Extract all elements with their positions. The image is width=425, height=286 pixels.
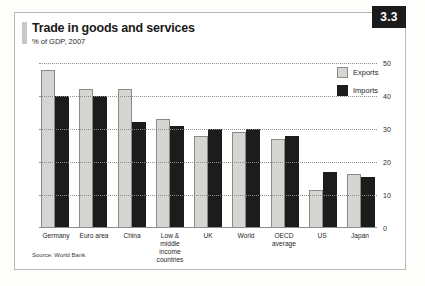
- bar-imports: [361, 177, 375, 228]
- legend-item-exports: Exports: [337, 67, 378, 78]
- page-title: Trade in goods and services: [32, 21, 195, 35]
- bar-imports: [323, 172, 337, 228]
- bar-exports: [271, 139, 285, 228]
- gridline-10: [39, 195, 377, 196]
- bar-group: [41, 70, 69, 228]
- gridline-20: [39, 162, 377, 163]
- bar-exports: [79, 89, 93, 228]
- bar-exports: [194, 136, 208, 228]
- y-axis-tick-0: 0: [383, 225, 401, 232]
- legend-item-imports: Imports: [337, 85, 378, 96]
- gridline-30: [39, 129, 377, 130]
- x-axis-label: Low & middle income countries: [155, 232, 185, 264]
- y-axis-tick-10: 10: [383, 192, 401, 199]
- bar-group: [194, 129, 222, 228]
- y-axis-tick-20: 20: [383, 159, 401, 166]
- plot-area: 01020304050: [39, 63, 377, 228]
- bar-imports: [246, 129, 260, 228]
- bar-imports: [170, 126, 184, 228]
- x-axis-line: [39, 227, 377, 228]
- x-axis-label: US: [307, 232, 337, 264]
- bar-group: [309, 172, 337, 228]
- bar-exports: [232, 132, 246, 228]
- chart-legend: Exports Imports: [337, 67, 378, 103]
- bar-imports: [285, 136, 299, 228]
- x-axis-label: China: [117, 232, 147, 264]
- bar-group: [156, 119, 184, 228]
- bar-exports: [41, 70, 55, 228]
- legend-label-exports: Exports: [353, 68, 378, 77]
- bar-exports: [118, 89, 132, 228]
- x-axis-label: OECD average: [269, 232, 299, 264]
- legend-label-imports: Imports: [353, 86, 378, 95]
- bar-imports: [132, 122, 146, 228]
- bar-imports: [208, 129, 222, 228]
- bar-exports: [347, 174, 361, 228]
- x-axis-label: World: [231, 232, 261, 264]
- screenshot-root: Trade in goods and services % of GDP, 20…: [0, 0, 425, 286]
- bar-group: [118, 89, 146, 228]
- status-badge: 3.3: [372, 6, 406, 28]
- gridline-40: [39, 96, 377, 97]
- exports-swatch-icon: [337, 67, 348, 78]
- x-axis-label: Euro area: [79, 232, 109, 264]
- y-axis-tick-50: 50: [383, 60, 401, 67]
- bar-exports: [156, 119, 170, 228]
- bar-group: [232, 129, 260, 228]
- x-axis-label: Japan: [345, 232, 375, 264]
- bar-group: [347, 174, 375, 228]
- x-axis-labels: GermanyEuro areaChinaLow & middle income…: [39, 232, 377, 264]
- gridline-50: [39, 63, 377, 64]
- chart-card: Trade in goods and services % of GDP, 20…: [14, 12, 406, 270]
- x-axis-label: Germany: [41, 232, 71, 264]
- bar-group-container: [39, 63, 377, 228]
- bar-group: [79, 89, 107, 228]
- chart-subtitle: % of GDP, 2007: [32, 37, 85, 46]
- x-axis-label: UK: [193, 232, 223, 264]
- y-axis-tick-30: 30: [383, 126, 401, 133]
- title-accent-bar: [22, 22, 27, 44]
- bar-group: [271, 136, 299, 228]
- y-axis-tick-40: 40: [383, 93, 401, 100]
- imports-swatch-icon: [337, 85, 348, 96]
- source-note: Source: World Bank: [32, 252, 85, 258]
